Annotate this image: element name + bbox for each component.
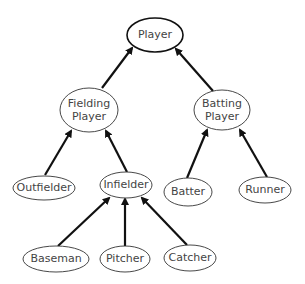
edge-outfielder-to-fielding-player-arrow bbox=[45, 131, 71, 175]
node-label: Player bbox=[138, 28, 173, 41]
node-label: Player bbox=[72, 110, 107, 123]
node-player: Player bbox=[127, 18, 183, 52]
node-outfielder: Outfielder bbox=[13, 176, 75, 200]
node-label: Runner bbox=[245, 183, 285, 196]
edge-fielding-player-to-player-arrow bbox=[102, 48, 132, 88]
edge-infielder-to-fielding-player-arrow bbox=[106, 131, 127, 172]
node-label: Baseman bbox=[30, 252, 81, 265]
edge-runner-to-batting-player-arrow bbox=[240, 130, 267, 177]
edge-batter-to-batting-player-arrow bbox=[187, 130, 207, 178]
node-label: Outfielder bbox=[17, 181, 72, 194]
edge-baseman-to-infielder-arrow bbox=[58, 198, 109, 246]
node-catcher: Catcher bbox=[164, 245, 216, 271]
node-batting-player: BattingPlayer bbox=[194, 90, 250, 130]
node-label: Player bbox=[205, 110, 240, 123]
node-label: Fielding bbox=[68, 97, 110, 110]
node-fielding-player: FieldingPlayer bbox=[60, 88, 118, 132]
node-label: Pitcher bbox=[106, 252, 145, 265]
node-label: Infielder bbox=[103, 178, 149, 191]
node-label: Catcher bbox=[168, 251, 212, 264]
node-pitcher: Pitcher bbox=[100, 246, 150, 272]
node-label: Batter bbox=[171, 185, 206, 198]
node-infielder: Infielder bbox=[100, 172, 152, 198]
node-label: Batting bbox=[202, 97, 242, 110]
node-batter: Batter bbox=[164, 178, 212, 206]
edge-batting-player-to-player-arrow bbox=[176, 49, 213, 91]
edges-layer bbox=[45, 48, 267, 246]
class-hierarchy-diagram: PlayerFieldingPlayerBattingPlayerOutfiel… bbox=[0, 0, 305, 284]
node-baseman: Baseman bbox=[23, 246, 89, 272]
node-runner: Runner bbox=[239, 177, 291, 203]
